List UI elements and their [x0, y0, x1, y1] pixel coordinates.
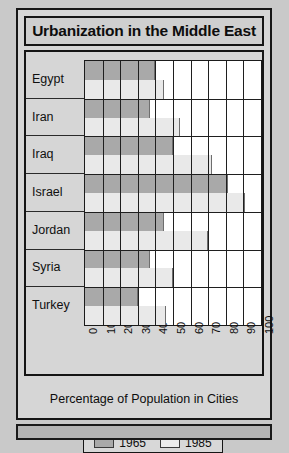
category-separator	[26, 211, 84, 212]
bar-syria-1965	[85, 250, 150, 269]
category-label-israel: Israel	[32, 186, 84, 199]
gridline-horizontal	[85, 287, 261, 288]
gridline-horizontal	[85, 174, 261, 175]
bar-iraq-1985	[85, 155, 212, 174]
x-tick-90: 90	[246, 322, 257, 334]
bar-end-edge	[179, 118, 180, 137]
x-tick-80: 80	[229, 322, 240, 334]
bar-end-edge	[211, 155, 212, 174]
gridline-vertical	[103, 61, 104, 325]
gridline-vertical	[243, 61, 244, 325]
bar-iran-1965	[85, 99, 150, 118]
gridline-vertical	[208, 61, 209, 325]
x-tick-100: 100	[264, 316, 275, 334]
bar-end-edge	[165, 306, 166, 325]
bar-end-edge	[149, 99, 150, 118]
bar-israel-1985	[85, 193, 245, 212]
bar-jordan-1965	[85, 212, 164, 231]
bar-syria-1985	[85, 268, 173, 287]
bar-turkey-1985	[85, 306, 166, 325]
category-label-jordan: Jordan	[32, 224, 84, 237]
bar-egypt-1985	[85, 80, 164, 99]
gridline-horizontal	[85, 250, 261, 251]
gridline-vertical	[155, 61, 156, 325]
x-axis-tick-labels: 0102030405060708090100	[84, 334, 262, 370]
x-tick-60: 60	[194, 322, 205, 334]
x-axis-title: Percentage of Population in Cities	[26, 392, 262, 406]
category-separator	[26, 249, 84, 250]
category-label-syria: Syria	[32, 261, 84, 274]
bar-iran-1985	[85, 118, 180, 137]
gridline-horizontal	[85, 99, 261, 100]
x-tick-70: 70	[211, 322, 222, 334]
gridline-vertical	[173, 61, 174, 325]
category-label-iraq: Iraq	[32, 148, 84, 161]
gridline-horizontal	[85, 212, 261, 213]
gridline-vertical	[120, 61, 121, 325]
gridline-vertical	[226, 61, 227, 325]
footer-bar	[16, 424, 272, 440]
plot-area: EgyptIranIraqIsraelJordanSyriaTurkey 010…	[24, 50, 264, 376]
bar-end-edge	[163, 80, 164, 99]
category-separator	[26, 98, 84, 99]
chart-grid	[84, 60, 262, 326]
bar-end-edge	[163, 212, 164, 231]
gridline-vertical	[138, 61, 139, 325]
category-separator	[26, 173, 84, 174]
x-tick-50: 50	[176, 322, 187, 334]
chart-title-box: Urbanization in the Middle East	[24, 16, 264, 46]
bar-turkey-1965	[85, 287, 138, 306]
category-label-iran: Iran	[32, 111, 84, 124]
gridline-horizontal	[85, 136, 261, 137]
gridline-vertical	[191, 61, 192, 325]
category-label-turkey: Turkey	[32, 299, 84, 312]
category-label-column: EgyptIranIraqIsraelJordanSyriaTurkey	[26, 52, 84, 374]
bar-iraq-1965	[85, 136, 173, 155]
category-label-egypt: Egypt	[32, 73, 84, 86]
category-separator	[26, 286, 84, 287]
page-title: Urbanization in the Middle East	[32, 22, 256, 40]
bar-end-edge	[149, 250, 150, 269]
x-tick-0: 0	[88, 328, 99, 334]
category-separator	[26, 135, 84, 136]
figure-panel: Urbanization in the Middle East EgyptIra…	[16, 8, 272, 420]
